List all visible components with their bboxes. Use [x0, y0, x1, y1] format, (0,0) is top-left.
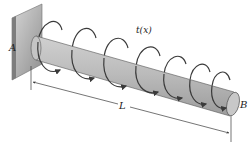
torsion-diagram: A t(x) L B: [0, 0, 249, 149]
diagram-canvas: A t(x) L B: [0, 0, 249, 149]
label-distributed-torque: t(x): [136, 25, 152, 35]
label-length: L: [118, 100, 126, 111]
label-free-end-b: B: [239, 99, 247, 110]
label-fixed-end-a: A: [8, 42, 16, 53]
